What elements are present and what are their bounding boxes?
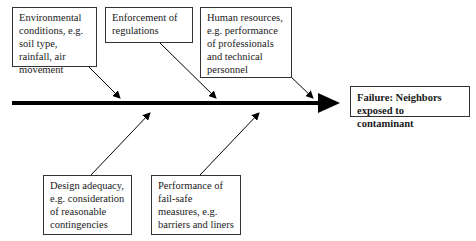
- cause-box-human-resources: Human resources, e.g. performance of pro…: [200, 7, 292, 78]
- arrow-design: [91, 113, 150, 175]
- cause-label: Environmental conditions, e.g. soil type…: [19, 12, 83, 75]
- cause-label: Design adequacy, e.g. consideration of r…: [50, 180, 124, 230]
- cause-box-performance: Performance of fail-safe measures, e.g. …: [151, 175, 241, 235]
- cause-label: Performance of fail-safe measures, e.g. …: [158, 180, 234, 230]
- cause-box-enforcement: Enforcement of regulations: [105, 7, 193, 43]
- cause-box-design: Design adequacy, e.g. consideration of r…: [43, 175, 132, 235]
- spine-arrowhead-icon: [318, 93, 340, 113]
- arrow-environmental: [88, 66, 120, 98]
- arrow-performance: [200, 113, 259, 175]
- cause-label: Human resources, e.g. performance of pro…: [207, 12, 283, 75]
- cause-box-environmental: Environmental conditions, e.g. soil type…: [12, 7, 97, 67]
- cause-label: Enforcement of regulations: [112, 12, 178, 36]
- effect-box: Failure: Neighbors exposed to contaminan…: [350, 86, 470, 117]
